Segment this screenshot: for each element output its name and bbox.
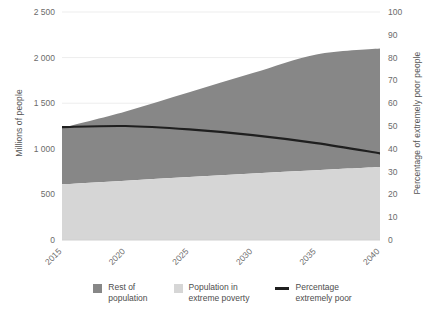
legend-item-percentage-extremely-poor: Percentage extremely poor (275, 282, 351, 304)
svg-text:2020: 2020 (107, 246, 128, 267)
svg-text:100: 100 (388, 7, 402, 17)
chart-canvas: 05001 0001 5002 0002 500 010203040506070… (0, 0, 445, 325)
area-rest-of-population (62, 48, 380, 184)
chart-legend: Rest of population Population in extreme… (0, 282, 445, 304)
svg-text:2 500: 2 500 (34, 7, 56, 17)
legend-swatch-icon (93, 284, 102, 293)
svg-text:80: 80 (388, 53, 398, 63)
svg-text:30: 30 (388, 167, 398, 177)
svg-text:10: 10 (388, 212, 398, 222)
svg-text:2 000: 2 000 (34, 53, 56, 63)
y-axis-right-ticks: 0102030405060708090100 (388, 7, 402, 245)
svg-text:40: 40 (388, 144, 398, 154)
svg-text:1 000: 1 000 (34, 144, 56, 154)
svg-text:90: 90 (388, 30, 398, 40)
legend-label: Percentage extremely poor (295, 282, 351, 304)
svg-text:2035: 2035 (297, 246, 318, 267)
chart-figure: 05001 0001 5002 0002 500 010203040506070… (0, 0, 445, 325)
svg-text:1 500: 1 500 (34, 98, 56, 108)
svg-text:20: 20 (388, 189, 398, 199)
legend-item-rest-of-population: Rest of population (93, 282, 147, 304)
y-axis-right-title: Percentage of extremely poor people (412, 28, 422, 218)
svg-text:0: 0 (50, 235, 55, 245)
legend-line-icon (275, 287, 289, 290)
svg-text:2015: 2015 (43, 246, 64, 267)
area-layers (62, 48, 380, 240)
y-axis-left-title: Millions of people (14, 58, 24, 188)
svg-text:70: 70 (388, 75, 398, 85)
legend-label: Population in extreme poverty (189, 282, 250, 304)
legend-swatch-icon (174, 284, 183, 293)
y-axis-left-ticks: 05001 0001 5002 0002 500 (34, 7, 56, 245)
svg-text:500: 500 (41, 189, 55, 199)
svg-text:2025: 2025 (170, 246, 191, 267)
svg-text:60: 60 (388, 98, 398, 108)
x-axis-ticks: 201520202025203020352040 (43, 246, 382, 267)
legend-item-population-in-extreme-poverty: Population in extreme poverty (174, 282, 250, 304)
svg-text:2040: 2040 (361, 246, 382, 267)
svg-text:0: 0 (388, 235, 393, 245)
legend-label: Rest of population (108, 282, 147, 304)
svg-text:2030: 2030 (234, 246, 255, 267)
svg-text:50: 50 (388, 121, 398, 131)
